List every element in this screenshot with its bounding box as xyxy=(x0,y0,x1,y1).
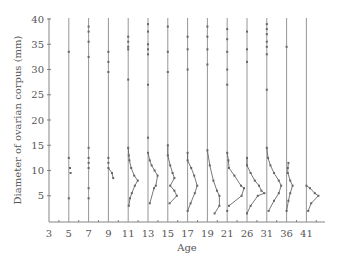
data-point xyxy=(258,185,260,187)
x-tick-label: 36 xyxy=(280,228,293,239)
data-point xyxy=(133,175,135,177)
data-point xyxy=(226,38,228,40)
series-age-13 xyxy=(147,23,159,204)
data-point xyxy=(228,205,230,207)
data-point xyxy=(212,180,214,182)
data-point xyxy=(137,180,139,182)
data-point xyxy=(309,187,311,189)
data-point xyxy=(149,202,151,204)
data-point xyxy=(149,159,151,161)
data-point xyxy=(206,26,208,28)
series-age-17 xyxy=(187,36,199,212)
data-point xyxy=(263,192,265,194)
data-point xyxy=(226,210,228,212)
series-age-19 xyxy=(206,26,220,215)
data-point xyxy=(88,157,90,159)
connector-line xyxy=(168,145,177,203)
x-tick-label: 15 xyxy=(161,228,174,239)
data-point xyxy=(107,71,109,73)
data-point xyxy=(287,167,289,169)
data-point xyxy=(287,172,289,174)
data-point xyxy=(167,154,169,156)
x-tick-label: 17 xyxy=(181,228,194,239)
x-tick-label: 21 xyxy=(221,228,234,239)
data-point xyxy=(209,164,211,166)
data-point xyxy=(127,147,129,149)
data-point xyxy=(226,51,228,53)
data-point xyxy=(292,185,294,187)
data-point xyxy=(226,84,228,86)
y-ticks: 510152025303540 xyxy=(31,14,51,202)
data-point xyxy=(287,200,289,202)
data-point xyxy=(226,152,228,154)
y-tick-label: 10 xyxy=(31,165,44,176)
data-series xyxy=(68,23,320,214)
data-point xyxy=(147,48,149,50)
data-point xyxy=(286,46,288,48)
data-point xyxy=(317,195,319,197)
data-point xyxy=(157,175,159,177)
series-age-15 xyxy=(167,26,178,205)
connector-line xyxy=(227,153,244,206)
data-point xyxy=(267,157,269,159)
data-point xyxy=(190,202,192,204)
x-ticks: 357911131517192126313641 xyxy=(46,220,316,239)
connector-line xyxy=(207,150,219,213)
data-point xyxy=(112,177,114,179)
data-point xyxy=(88,162,90,164)
data-point xyxy=(169,202,171,204)
data-point xyxy=(216,190,218,192)
data-point xyxy=(243,187,245,189)
y-axis-title: Diameter of ovarian corpus (mm) xyxy=(12,35,23,204)
data-point xyxy=(69,167,71,169)
series-age-21 xyxy=(226,28,245,212)
data-point xyxy=(147,23,149,25)
data-point xyxy=(127,79,129,81)
data-point xyxy=(266,147,268,149)
data-point xyxy=(127,48,129,50)
y-tick-label: 40 xyxy=(31,14,44,25)
data-point xyxy=(278,180,280,182)
x-tick-label: 41 xyxy=(300,228,313,239)
data-point xyxy=(246,48,248,50)
y-tick-label: 5 xyxy=(38,190,44,201)
data-point xyxy=(307,210,309,212)
data-point xyxy=(187,152,189,154)
data-point xyxy=(107,167,109,169)
data-point xyxy=(187,210,189,212)
data-point xyxy=(273,172,275,174)
data-point xyxy=(280,185,282,187)
data-point xyxy=(154,170,156,172)
data-point xyxy=(266,41,268,43)
x-tick-label: 5 xyxy=(66,228,72,239)
y-tick-label: 35 xyxy=(31,39,44,50)
data-point xyxy=(134,185,136,187)
data-point xyxy=(68,51,70,53)
x-tick-label: 26 xyxy=(241,228,254,239)
data-point xyxy=(214,212,216,214)
connector-line xyxy=(306,186,318,211)
data-point xyxy=(246,164,248,166)
data-point xyxy=(147,31,149,33)
data-point xyxy=(227,159,229,161)
x-tick-label: 13 xyxy=(142,228,155,239)
data-point xyxy=(266,28,268,30)
data-point xyxy=(278,192,280,194)
data-point xyxy=(127,41,129,43)
data-point xyxy=(289,180,291,182)
data-point xyxy=(268,210,270,212)
data-point xyxy=(169,164,171,166)
data-point xyxy=(107,162,109,164)
chart-canvas: 510152025303540 357911131517192126313641… xyxy=(0,0,345,265)
data-point xyxy=(128,154,130,156)
data-point xyxy=(68,197,70,199)
data-point xyxy=(151,164,153,166)
data-point xyxy=(269,164,271,166)
data-point xyxy=(107,51,109,53)
data-point xyxy=(266,46,268,48)
data-point xyxy=(128,205,130,207)
data-point xyxy=(88,41,90,43)
data-point xyxy=(218,195,220,197)
connector-line xyxy=(188,153,198,211)
data-point xyxy=(88,187,90,189)
